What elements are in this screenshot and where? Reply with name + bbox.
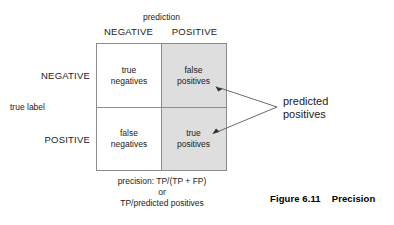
- cell-true-positives-line2: positives: [177, 139, 210, 149]
- cell-false-positives: false positives: [161, 44, 226, 107]
- confusion-matrix: true negatives false positives false neg…: [96, 43, 227, 171]
- figure-canvas: prediction NEGATIVE POSITIVE true label …: [0, 0, 394, 225]
- matrix-horizontal-divider: [97, 107, 226, 108]
- cell-true-positives-line1: true: [186, 128, 201, 138]
- column-header-positive: POSITIVE: [162, 26, 227, 37]
- leader-line-to-false-positives: [220, 88, 277, 107]
- cell-false-negatives-line2: negatives: [111, 139, 147, 149]
- callout-line1: predicted: [283, 95, 328, 108]
- cell-true-positives: true positives: [161, 107, 226, 170]
- cell-false-negatives: false negatives: [97, 107, 161, 170]
- cell-false-positives-line2: positives: [177, 76, 210, 86]
- true-label-axis-label: true label: [10, 102, 90, 112]
- precision-formula: precision: TP/(TP + FP) or TP/predicted …: [86, 176, 238, 209]
- figure-caption: Figure 6.11 Precision: [270, 193, 375, 204]
- callout-line2: positives: [283, 108, 328, 121]
- row-header-positive: POSITIVE: [16, 134, 90, 145]
- cell-false-negatives-line1: false: [120, 128, 138, 138]
- precision-formula-line1: precision: TP/(TP + FP): [86, 176, 238, 187]
- cell-true-negatives-line2: negatives: [111, 76, 147, 86]
- cell-false-positives-line1: false: [185, 65, 203, 75]
- callout-predicted-positives: predicted positives: [283, 95, 328, 121]
- prediction-axis-label: prediction: [96, 12, 227, 22]
- precision-formula-line3: TP/predicted positives: [86, 198, 238, 209]
- precision-formula-line2: or: [86, 187, 238, 198]
- cell-true-negatives-line1: true: [122, 65, 137, 75]
- row-header-negative: NEGATIVE: [16, 70, 90, 81]
- cell-true-negatives: true negatives: [97, 44, 161, 107]
- column-header-negative: NEGATIVE: [96, 26, 161, 37]
